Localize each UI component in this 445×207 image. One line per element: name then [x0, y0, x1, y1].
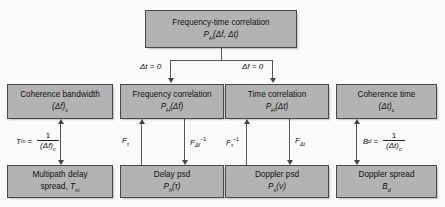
formula-bd-lhs-sub: d — [368, 138, 371, 144]
formula-bd-denominator: (Δt)c — [383, 140, 405, 152]
edge-label-f-tau-sub: τ — [127, 141, 129, 147]
connector-to-time-correlation — [272, 60, 273, 79]
node-delay-psd: Delay psd Ph(τ) — [120, 165, 224, 198]
coherence-bandwidth-subscript: c — [65, 107, 68, 113]
delay-psd-args: (τ) — [172, 182, 181, 191]
edge-label-f-deltaf-inverse-sub: Δf — [195, 142, 200, 148]
formula-tm-denominator: (Δf)c — [37, 140, 59, 152]
node-delay-psd-line2: Ph(τ) — [163, 181, 180, 194]
edge-label-f-deltat: FΔt — [295, 136, 305, 147]
connector-doppler-psd-to-time-correlation — [246, 122, 247, 165]
edge-label-f-deltaf-inverse-sup: −1 — [200, 136, 206, 142]
node-frequency-time-correlation-line2: PH(Δf, Δt) — [203, 29, 238, 42]
coherence-time-subscript: c — [392, 107, 395, 113]
edge-label-delta-t-zero-text: Δt = 0 — [140, 62, 161, 71]
formula-tm-denominator-sub: c — [53, 146, 56, 152]
formula-tm: Tm = 1 (Δf)c — [16, 131, 59, 152]
formula-bd-denominator-main: (Δt) — [386, 141, 399, 150]
connector-frequency-correlation-to-delay-psd — [184, 119, 185, 162]
node-delay-psd-line1: Delay psd — [154, 169, 190, 181]
node-doppler-spread-line2: Bd — [382, 181, 391, 194]
node-doppler-psd-line2: Ps(ν) — [268, 181, 286, 194]
connector-time-correlation-to-doppler-psd — [289, 119, 290, 162]
arrowhead-up-time-correlation — [244, 119, 250, 124]
formula-tm-fraction: 1 (Δf)c — [37, 131, 59, 152]
formula-tm-lhs-sub: m — [21, 138, 26, 144]
formula-bd-fraction: 1 (Δt)c — [383, 131, 405, 152]
node-doppler-spread-line1: Doppler spread — [359, 169, 415, 181]
edge-label-f-tau-inverse: Fτ−1 — [226, 136, 239, 148]
arrowhead-up-frequency-correlation — [139, 119, 145, 124]
connector-to-frequency-correlation — [170, 60, 171, 79]
node-multipath-delay-spread-line2: spread, Tm — [40, 181, 79, 194]
connector-coherence-time-doppler-spread — [356, 122, 357, 162]
arrowhead-up-coherence-bandwidth — [58, 119, 64, 124]
node-coherence-bandwidth-line2: (Δf)c — [52, 101, 68, 114]
node-doppler-psd: Doppler psd Ps(ν) — [225, 165, 329, 198]
edge-label-delta-f-zero-text: Δf = 0 — [242, 62, 263, 71]
coherence-bandwidth-symbol: (Δf) — [52, 102, 65, 111]
edge-label-delta-f-zero: Δf = 0 — [242, 62, 263, 71]
node-time-correlation-line2: PH(Δt) — [266, 101, 289, 114]
node-doppler-psd-line1: Doppler psd — [255, 169, 299, 181]
edge-label-f-tau-inverse-sub: τ — [231, 142, 233, 148]
formula-bd-numerator: 1 — [389, 131, 399, 140]
diagram-canvas: Frequency-time correlation PH(Δf, Δt) Δt… — [0, 0, 445, 207]
arrowhead-to-time-correlation — [270, 78, 276, 83]
node-frequency-correlation-line1: Frequency correlation — [132, 89, 211, 101]
edge-label-f-deltaf-inverse: FΔf−1 — [190, 136, 206, 148]
edge-label-f-tau-inverse-sup: −1 — [233, 136, 239, 142]
frequency-correlation-args: (Δf) — [170, 102, 183, 111]
time-correlation-args: (Δt) — [275, 102, 288, 111]
formula-bd-equals: = — [373, 137, 378, 146]
arrowhead-up-coherence-time — [354, 119, 360, 124]
node-multipath-delay-spread-line1: Multipath delay — [32, 169, 87, 181]
node-coherence-bandwidth: Coherence bandwidth (Δf)c — [7, 84, 113, 119]
node-frequency-correlation: Frequency correlation PH(Δf) — [120, 84, 224, 119]
node-multipath-delay-spread: Multipath delay spread, Tm — [7, 165, 113, 198]
edge-label-f-tau: Fτ — [122, 136, 129, 147]
symbol-P-args: (Δf, Δt) — [213, 30, 239, 39]
node-doppler-spread: Doppler spread Bd — [336, 165, 437, 198]
edge-label-f-deltat-sub: Δt — [300, 141, 305, 147]
connector-delay-psd-to-frequency-correlation — [141, 122, 142, 165]
multipath-spread-prefix: spread, — [40, 182, 70, 191]
connector-coherence-bw-multipath — [60, 122, 61, 162]
node-frequency-time-correlation: Frequency-time correlation PH(Δf, Δt) — [145, 10, 297, 48]
formula-tm-equals: = — [27, 137, 32, 146]
node-coherence-bandwidth-line1: Coherence bandwidth — [20, 89, 100, 101]
formula-tm-numerator: 1 — [43, 131, 53, 140]
coherence-time-symbol: (Δt) — [378, 102, 391, 111]
multipath-spread-subscript: m — [75, 187, 80, 193]
formula-bd: Bd = 1 (Δt)c — [363, 131, 405, 152]
node-coherence-time-line2: (Δt)c — [378, 101, 394, 114]
node-coherence-time-line1: Coherence time — [358, 89, 416, 101]
node-time-correlation-line1: Time correlation — [248, 89, 306, 101]
formula-bd-denominator-sub: c — [399, 146, 402, 152]
node-frequency-correlation-line2: PH(Δf) — [161, 101, 184, 114]
edge-label-delta-t-zero: Δt = 0 — [140, 62, 161, 71]
connector-top-stem — [221, 48, 222, 60]
node-coherence-time: Coherence time (Δt)c — [336, 84, 437, 119]
doppler-spread-subscript: d — [388, 187, 391, 193]
node-frequency-time-correlation-line1: Frequency-time correlation — [172, 17, 269, 29]
connector-split-bar — [170, 60, 272, 61]
node-time-correlation: Time correlation PH(Δt) — [225, 84, 329, 119]
arrowhead-to-frequency-correlation — [168, 78, 174, 83]
doppler-psd-args: (ν) — [276, 182, 286, 191]
formula-tm-denominator-main: (Δf) — [40, 141, 53, 150]
